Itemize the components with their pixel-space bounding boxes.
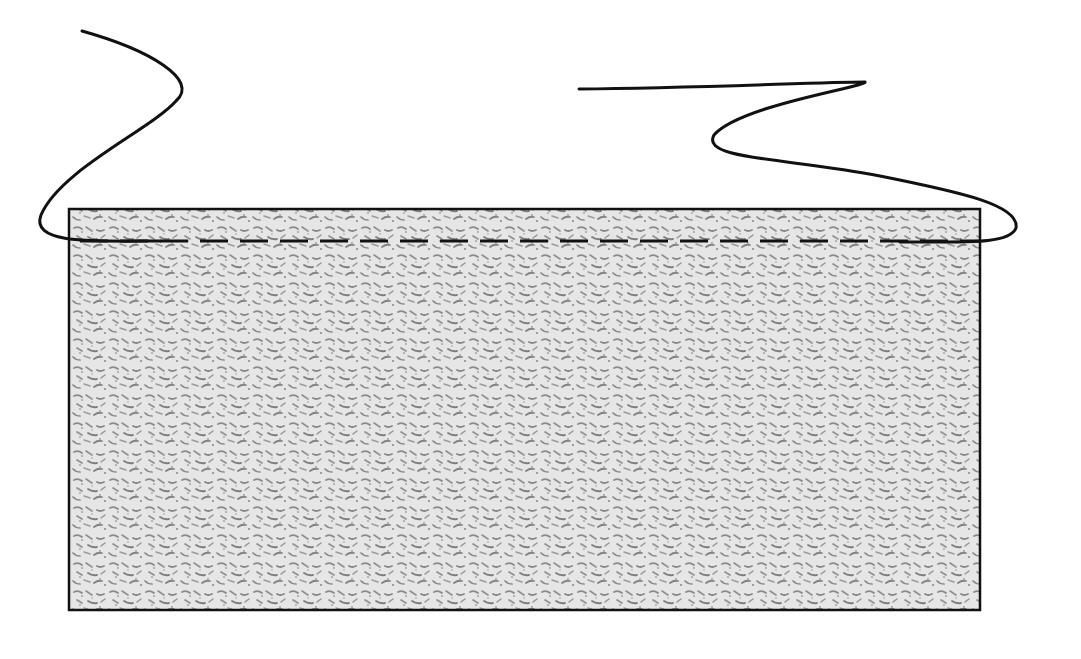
speckled-block (69, 209, 980, 610)
diagram-canvas (0, 0, 1081, 659)
